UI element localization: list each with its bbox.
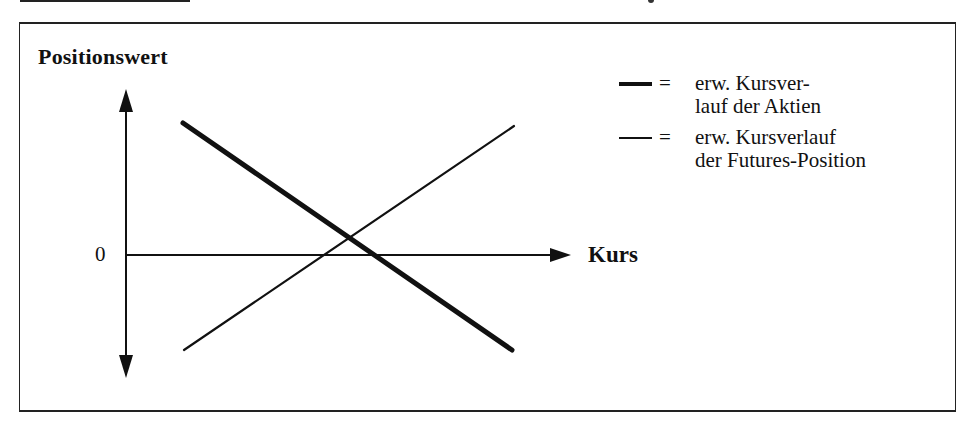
x-axis-arrow-icon [550, 248, 571, 262]
legend-text-line2: lauf der Aktien [675, 95, 866, 118]
legend-text-line1: erw. Kursver- [675, 72, 866, 95]
legend-text-line2: der Futures-Position [675, 149, 866, 172]
thin-line-swatch-icon [619, 137, 652, 139]
x-axis-label: Kurs [588, 242, 638, 268]
legend-equals: = [659, 72, 671, 95]
y-axis-arrow-up-icon [119, 89, 133, 112]
legend-text-line1: erw. Kursverlauf [675, 126, 866, 149]
y-axis-arrow-down-icon [119, 355, 133, 378]
legend: = erw. Kursver- lauf der Aktien = erw. K… [619, 72, 866, 180]
y-axis-label: Positionswert [38, 44, 168, 70]
legend-equals: = [659, 126, 671, 149]
origin-label: 0 [95, 242, 106, 267]
legend-item-futures: = erw. Kursverlauf der Futures-Position [619, 126, 866, 172]
thick-line-swatch-icon [619, 82, 652, 86]
legend-item-aktien: = erw. Kursver- lauf der Aktien [619, 72, 866, 118]
